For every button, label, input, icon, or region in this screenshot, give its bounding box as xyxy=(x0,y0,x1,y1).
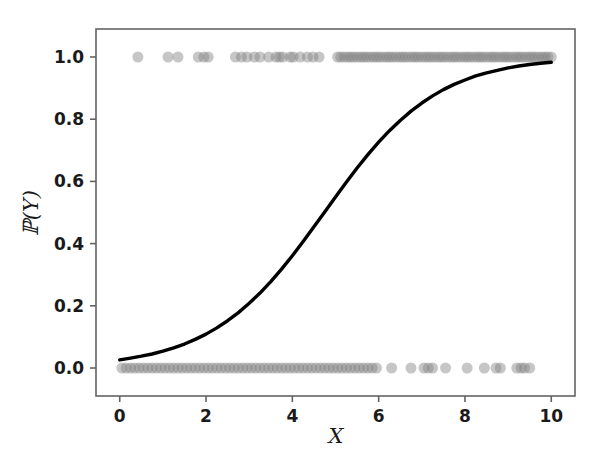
scatter-point xyxy=(524,363,535,374)
y-axis-label: ℙ(Y) xyxy=(19,190,43,236)
y-tick-label: 0.0 xyxy=(54,358,84,378)
scatter-point xyxy=(427,363,438,374)
scatter-point xyxy=(172,51,183,62)
y-tick-label: 0.2 xyxy=(54,296,84,316)
y-tick-label: 0.4 xyxy=(54,234,84,254)
x-tick-label: 0 xyxy=(114,406,126,426)
scatter-point xyxy=(495,363,506,374)
scatter-point xyxy=(314,51,325,62)
logistic-regression-figure: 0246810 0.00.20.40.60.81.0 X ℙ(Y) xyxy=(0,0,605,457)
scatter-point xyxy=(462,363,473,374)
scatter-point xyxy=(203,51,214,62)
x-axis-label: X xyxy=(327,424,345,448)
x-tick-label: 10 xyxy=(539,406,563,426)
y-tick-label: 0.8 xyxy=(54,109,84,129)
y-tick-label: 1.0 xyxy=(54,47,84,67)
figure-background xyxy=(0,0,605,457)
scatter-point xyxy=(132,51,143,62)
scatter-point xyxy=(406,363,417,374)
x-tick-label: 4 xyxy=(286,406,298,426)
scatter-point xyxy=(371,363,382,374)
scatter-point xyxy=(163,51,174,62)
scatter-point xyxy=(440,363,451,374)
x-tick-label: 6 xyxy=(373,406,385,426)
x-tick-label: 8 xyxy=(459,406,471,426)
y-tick-label: 0.6 xyxy=(54,171,84,191)
scatter-point xyxy=(386,363,397,374)
scatter-point xyxy=(479,363,490,374)
x-tick-label: 2 xyxy=(200,406,212,426)
plot-canvas: 0246810 0.00.20.40.60.81.0 X ℙ(Y) xyxy=(0,0,605,457)
